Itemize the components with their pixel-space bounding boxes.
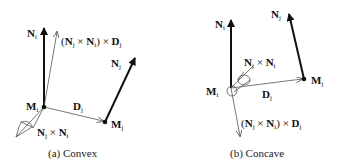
caption-convex: (a) Convex [48,147,98,160]
caption-concave: (b) Concave [230,147,284,160]
mi-point [42,105,47,110]
label-dj: Dj [73,100,83,114]
label-mi: Mi [206,85,218,99]
cross-cross-vector [44,32,57,107]
label-nj-cross-ni: Nj × Ni [244,56,276,70]
label-nj-cross-ni: Nj × Ni [37,126,69,140]
panel-concave: Ni Nj Nj × Ni Mj Mi Dj (Nj × Ni) × Dj (b… [206,8,323,160]
panel-convex: Ni (Nj × Ni) × Dj Nj Mi Dj Mj Nj × Ni (a… [16,27,135,160]
nj-vector [289,14,304,79]
label-mj: Mj [311,74,323,88]
mj-point [302,77,307,82]
label-ni: Ni [215,18,225,32]
diagram: Ni (Nj × Ni) × Dj Nj Mi Dj Mj Nj × Ni (a… [0,0,339,168]
label-mi: Mi [26,100,38,114]
label-dj: Dj [262,88,272,102]
label-nj: Nj [271,8,281,22]
label-ni: Ni [27,27,37,41]
label-cross-cross: (Nj × Ni) × Dj [241,117,302,131]
cross-cross-vector [231,88,240,136]
label-cross-cross: (Nj × Ni) × Dj [61,35,122,49]
label-mj: Mj [111,118,123,132]
mj-point [103,120,108,125]
label-nj: Nj [111,57,121,71]
